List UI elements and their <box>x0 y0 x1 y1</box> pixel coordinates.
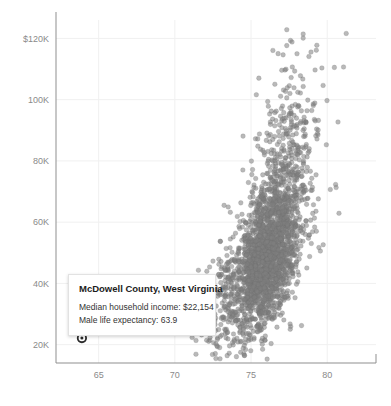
data-point <box>292 233 297 238</box>
data-point <box>292 184 297 189</box>
data-point <box>291 133 296 138</box>
data-point <box>292 123 297 128</box>
data-point <box>250 167 255 172</box>
data-point <box>296 224 301 229</box>
data-point <box>262 297 267 302</box>
y-tick-label: 60K <box>33 217 49 227</box>
data-point <box>269 148 274 153</box>
data-point <box>250 269 255 274</box>
data-point <box>289 227 294 232</box>
data-point <box>271 224 276 229</box>
data-point <box>287 145 292 150</box>
data-point <box>302 146 307 151</box>
data-point <box>243 236 248 241</box>
data-point <box>306 236 311 241</box>
data-point <box>306 151 311 156</box>
data-point <box>231 332 236 337</box>
data-point <box>320 66 325 71</box>
data-point <box>225 253 230 258</box>
data-point <box>313 101 318 106</box>
data-point <box>288 322 293 327</box>
data-point <box>309 176 314 181</box>
data-point <box>244 253 249 258</box>
data-point <box>278 258 283 263</box>
x-tick-label: 65 <box>94 370 104 380</box>
data-point <box>278 94 283 99</box>
data-point <box>254 257 259 262</box>
y-tick-label: 20K <box>33 340 49 350</box>
data-point <box>310 185 315 190</box>
data-point <box>281 180 286 185</box>
data-point <box>304 202 309 207</box>
data-point <box>262 150 267 155</box>
data-point <box>308 181 313 186</box>
data-point <box>266 182 271 187</box>
data-point <box>233 231 238 236</box>
data-point <box>284 96 289 101</box>
data-point <box>276 129 281 134</box>
data-point <box>285 222 290 227</box>
data-point <box>315 43 320 48</box>
y-tick-label: 100K <box>28 95 49 105</box>
data-point <box>272 123 277 128</box>
data-point <box>248 348 253 353</box>
data-point <box>287 162 292 167</box>
data-point <box>258 304 263 309</box>
data-point <box>276 222 281 227</box>
data-point <box>257 132 262 137</box>
data-point <box>241 270 246 275</box>
data-point <box>239 201 244 206</box>
data-point <box>264 271 269 276</box>
data-point <box>262 209 267 214</box>
data-point <box>300 198 305 203</box>
data-point <box>285 262 290 267</box>
data-point <box>257 223 262 228</box>
data-point <box>207 265 212 270</box>
data-point <box>288 91 293 96</box>
data-point <box>286 173 291 178</box>
data-point <box>269 236 274 241</box>
data-point <box>205 269 210 274</box>
data-point <box>250 172 255 177</box>
data-point <box>224 246 229 251</box>
data-point <box>251 284 256 289</box>
tooltip: McDowell County, West Virginia Median ho… <box>68 274 216 336</box>
data-point <box>217 345 222 350</box>
data-point <box>242 245 247 250</box>
data-point <box>217 257 222 262</box>
data-point <box>304 219 309 224</box>
data-point <box>274 277 279 282</box>
data-point <box>236 250 241 255</box>
data-point <box>276 51 281 56</box>
data-point <box>257 76 262 81</box>
data-point <box>218 308 223 313</box>
data-point <box>271 202 276 207</box>
data-point <box>281 143 286 148</box>
data-point <box>275 206 280 211</box>
data-point <box>264 267 269 272</box>
data-point <box>268 120 273 125</box>
data-point <box>267 311 272 316</box>
data-point <box>273 168 278 173</box>
scatter-chart: 20K40K60K80K100K$120K65707580 McDowell C… <box>0 0 391 406</box>
data-point <box>275 142 280 147</box>
data-point <box>316 118 321 123</box>
data-point <box>300 169 305 174</box>
data-point <box>226 275 231 280</box>
data-point <box>240 290 245 295</box>
data-point <box>290 40 295 45</box>
data-point <box>259 323 264 328</box>
data-point <box>295 144 300 149</box>
data-point <box>307 254 312 259</box>
data-point <box>216 272 221 277</box>
data-point <box>244 228 249 233</box>
data-point <box>279 232 284 237</box>
data-point <box>278 281 283 286</box>
data-point <box>301 32 306 37</box>
data-point <box>251 316 256 321</box>
data-point <box>234 272 239 277</box>
data-point <box>301 84 306 89</box>
data-point <box>260 336 265 341</box>
tooltip-row-life-expectancy: Male life expectancy: 63.9 <box>79 314 205 326</box>
data-point <box>226 261 231 266</box>
